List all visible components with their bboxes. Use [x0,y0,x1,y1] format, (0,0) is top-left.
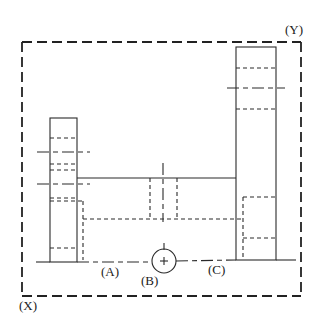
label-b: (B) [141,273,158,288]
hole-b [152,243,176,273]
technical-drawing: (Y) (X) (A) (B) (C) [0,0,319,323]
connecting-bar [77,163,243,260]
label-y: (Y) [285,22,303,37]
label-a: (A) [101,264,119,279]
label-c: (C) [208,262,225,277]
left-column [37,118,90,262]
right-column [227,47,285,260]
boundary-frame [22,42,301,296]
label-x: (X) [19,298,37,313]
